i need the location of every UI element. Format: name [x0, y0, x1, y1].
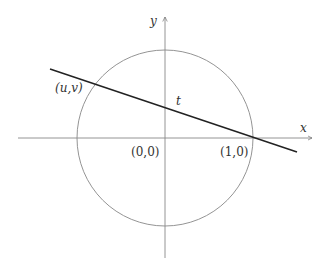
line-t-label: t: [176, 94, 181, 108]
secant-line: [50, 69, 297, 152]
unit-point-label: (1,0): [220, 145, 248, 159]
diagram-canvas: [0, 0, 325, 268]
origin-label: (0,0): [131, 145, 159, 159]
y-axis-label: y: [150, 14, 157, 28]
point-uv-label: (u,v): [55, 81, 83, 95]
x-axis-label: x: [300, 121, 307, 135]
